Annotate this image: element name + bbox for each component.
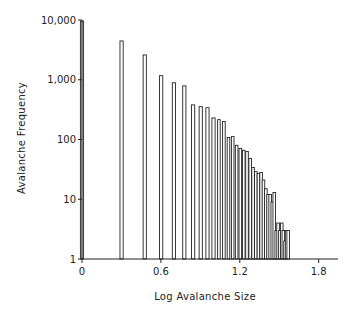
bars-group bbox=[80, 21, 289, 259]
x-tick-label: 1.2 bbox=[232, 266, 248, 277]
histogram-bar bbox=[231, 137, 234, 259]
y-ticks: 1101001,00010,000 bbox=[41, 15, 82, 265]
histogram-bar bbox=[172, 83, 175, 259]
x-ticks: 00.61.21.8 bbox=[79, 259, 327, 277]
histogram-bar bbox=[246, 151, 249, 259]
y-tick-label: 100 bbox=[57, 134, 76, 145]
histogram-bar bbox=[223, 122, 226, 259]
histogram-bar bbox=[252, 167, 255, 259]
x-tick-label: 0.6 bbox=[153, 266, 169, 277]
histogram-bar bbox=[287, 230, 290, 259]
y-tick-label: 10 bbox=[63, 194, 76, 205]
histogram-bar bbox=[239, 148, 242, 259]
histogram-bar bbox=[227, 138, 230, 260]
histogram-bar bbox=[218, 120, 221, 259]
x-tick-label: 0 bbox=[79, 266, 85, 277]
histogram-bar bbox=[183, 86, 186, 259]
histogram-bar bbox=[192, 105, 195, 259]
avalanche-histogram: 1101001,00010,000 00.61.21.8 Log Avalanc… bbox=[0, 0, 356, 313]
x-tick-label: 1.8 bbox=[311, 266, 327, 277]
histogram-bar bbox=[235, 145, 238, 259]
histogram-bar bbox=[249, 159, 252, 259]
histogram-bar bbox=[199, 107, 202, 259]
y-axis-title: Avalanche Frequency bbox=[16, 82, 27, 194]
histogram-bar bbox=[212, 118, 215, 259]
histogram-bar bbox=[143, 55, 146, 259]
y-tick-label: 10,000 bbox=[41, 15, 76, 26]
histogram-bar bbox=[206, 108, 209, 259]
y-tick-label: 1,000 bbox=[47, 74, 76, 85]
histogram-bar bbox=[242, 150, 245, 259]
histogram-bar bbox=[160, 76, 163, 259]
y-tick-label: 1 bbox=[70, 254, 76, 265]
x-axis-title: Log Avalanche Size bbox=[154, 291, 256, 302]
histogram-bar bbox=[120, 41, 123, 259]
